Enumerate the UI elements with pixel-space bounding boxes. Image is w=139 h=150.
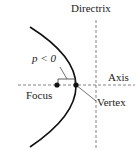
focus-label: Focus [26,90,52,101]
vertex-label: Vertex [97,97,126,108]
focus-point [54,82,59,87]
directrix-label: Directrix [71,3,111,14]
p-parameter-label: p < 0 [32,53,56,64]
vertex-leader-line [76,85,96,101]
p-bracket [58,79,75,83]
parabola-curve [30,27,76,147]
p-leader-line [60,67,67,79]
vertex-point [73,82,78,87]
axis-label: Axis [108,72,129,83]
